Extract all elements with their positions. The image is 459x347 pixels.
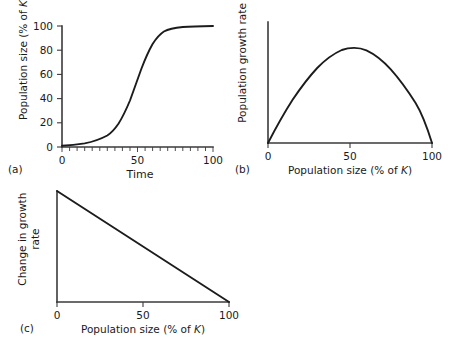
panel-a-ytick-100: 100 [33, 20, 53, 32]
panel-a-logistic-curve [62, 26, 213, 146]
panel-a-ytick-20: 20 [40, 116, 53, 128]
panel-b-xtick-0: 0 [265, 150, 272, 162]
panel-a-x-minor-ticks [62, 147, 213, 152]
panel-c-xlabel-italic: K [194, 323, 201, 335]
panel-b: 0 50 100 Population growth rate Populati… [230, 0, 459, 180]
panel-a-ytick-40: 40 [40, 92, 53, 104]
panel-b-xlabel-prefix: Population size (% of [288, 164, 401, 176]
panel-c-xtick-0: 0 [54, 309, 61, 321]
panel-c-plot: 0 50 100 [10, 176, 250, 347]
panel-c-xlabel-suffix: ) [201, 323, 205, 335]
panel-c-linear-curve [57, 191, 229, 302]
panel-b-xlabel-suffix: ) [408, 164, 412, 176]
panel-a-xtick-50: 50 [131, 154, 144, 166]
panel-a-ylabel-italic: K [17, 0, 29, 7]
panel-b-tag: (b) [235, 163, 250, 175]
panel-c: 0 50 100 Change in growth rate Populatio… [10, 176, 250, 347]
panel-a-ytick-0: 0 [46, 141, 53, 153]
panel-a-xtick-100: 100 [203, 154, 223, 166]
panel-c-xtick-50: 50 [136, 309, 149, 321]
panel-a-xtick-0: 0 [59, 154, 66, 166]
panel-b-ylabel-text: Population growth rate [236, 3, 248, 123]
panel-b-plot: 0 50 100 [230, 0, 459, 180]
panel-a-ytick-60: 60 [40, 68, 53, 80]
panel-c-ylabel-line2: rate [29, 184, 42, 294]
panel-b-y-axis-title: Population growth rate [236, 0, 248, 128]
panel-b-parabola-curve [268, 48, 432, 143]
panel-a-ylabel-prefix: Population size (% of [17, 7, 29, 120]
panel-a: 0 20 40 60 80 100 [0, 0, 230, 180]
panel-c-tag: (c) [20, 322, 34, 334]
panel-a-ytick-80: 80 [40, 44, 53, 56]
figure-container: 0 20 40 60 80 100 [0, 0, 459, 347]
panel-b-xtick-50: 50 [343, 150, 356, 162]
panel-c-xtick-100: 100 [219, 309, 239, 321]
panel-c-xlabel-prefix: Population size (% of [81, 323, 194, 335]
panel-a-plot: 0 20 40 60 80 100 [0, 0, 230, 180]
panel-c-x-axis-title: Population size (% of K) [73, 323, 213, 335]
panel-b-xlabel-italic: K [401, 164, 408, 176]
panel-b-xtick-100: 100 [422, 150, 442, 162]
panel-b-x-axis-title: Population size (% of K) [280, 164, 420, 176]
panel-a-tag: (a) [8, 163, 23, 175]
panel-a-y-axis-title: Population size (% of K) [17, 0, 29, 120]
panel-c-y-axis-title: Change in growth rate [16, 184, 42, 294]
panel-c-ylabel-line1: Change in growth [16, 184, 29, 294]
